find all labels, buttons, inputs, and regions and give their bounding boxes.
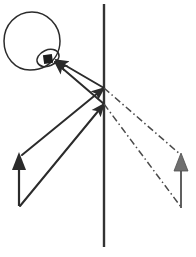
incident-ray-from-base <box>20 104 104 206</box>
incident-ray-from-tip <box>22 88 104 155</box>
virtual-extension-upper <box>104 88 181 155</box>
virtual-image-arrow-head <box>174 153 188 171</box>
object-arrow <box>12 152 26 206</box>
observer-head-group <box>4 12 62 70</box>
pupil-icon <box>43 54 53 64</box>
ray-diagram-canvas <box>0 0 196 257</box>
virtual-extension-lower <box>104 104 181 207</box>
ray-diagram-figure <box>0 0 196 257</box>
